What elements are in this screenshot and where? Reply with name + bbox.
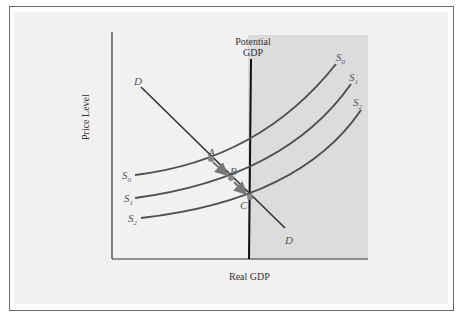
point-a-label: A: [208, 146, 215, 158]
x-axis-label: Real GDP: [229, 271, 270, 282]
s1-label-right: S1: [349, 71, 358, 86]
potential-label-line1: Potential: [230, 36, 276, 47]
point-c-label: C: [240, 199, 247, 211]
demand-label-top: D: [134, 75, 142, 87]
shaded-region: [248, 35, 368, 259]
potential-label-line2: GDP: [230, 47, 276, 58]
point-c: [247, 194, 253, 200]
s1-label-left: S1: [124, 192, 133, 207]
s2-label-right: S2: [353, 96, 362, 111]
s0-label-right: S0: [336, 51, 345, 66]
s2-label-left: S2: [128, 212, 137, 227]
point-b-label: B: [230, 165, 237, 177]
s0-label-left: S0: [122, 169, 131, 184]
demand-label-bottom: D: [285, 234, 293, 246]
y-axis-label: Price Level: [80, 94, 91, 140]
potential-gdp-label: Potential GDP: [230, 36, 276, 58]
